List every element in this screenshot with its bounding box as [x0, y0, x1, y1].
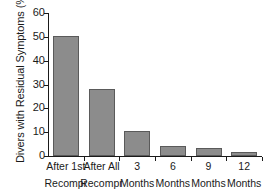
- y-tick-label: 10: [33, 125, 45, 138]
- y-axis-title: Divers with Residual Symptoms (%): [13, 3, 27, 163]
- bar: [231, 152, 257, 156]
- x-category-label: 12Months: [210, 160, 273, 190]
- bar-chart-figure: Divers with Residual Symptoms (%) 010203…: [0, 0, 273, 194]
- bar: [53, 36, 79, 156]
- bar: [160, 146, 186, 156]
- plot-area: 0102030405060: [48, 13, 262, 157]
- x-category-label-line1: 12: [210, 160, 273, 173]
- x-category-label-line2: Months: [210, 177, 273, 190]
- y-tick-label: 30: [33, 78, 45, 91]
- y-tick-label: 20: [33, 101, 45, 114]
- bar: [124, 131, 150, 156]
- y-tick-label: 40: [33, 54, 45, 67]
- y-axis-line: [48, 13, 49, 157]
- bar: [196, 148, 222, 156]
- y-tick-label: 60: [33, 6, 45, 19]
- bar: [89, 89, 115, 156]
- y-tick-label: 50: [33, 30, 45, 43]
